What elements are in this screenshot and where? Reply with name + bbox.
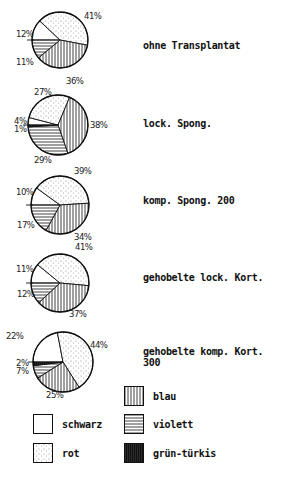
pct-label: 44% (90, 340, 107, 350)
legend-swatch-horizontal-lines-icon (124, 414, 144, 434)
legend-item-rot: rot (33, 443, 79, 463)
row-label-ohne-transplantat: ohne Transplantat (143, 40, 240, 51)
legend-label: schwarz (62, 419, 102, 430)
pct-label: 41% (75, 242, 92, 252)
pct-label: 36% (66, 76, 83, 86)
pct-label: 12% (16, 29, 33, 39)
legend-item-schwarz: schwarz (33, 414, 102, 434)
legend-label: grün-türkis (153, 448, 216, 459)
pct-label: 39% (74, 166, 91, 176)
row-label-komp-spong-200: komp. Spong. 200 (143, 195, 235, 206)
pct-label: 12% (17, 289, 34, 299)
row-label-gehobelte-komp-kort-300: gehobelte komp. Kort. 300 (143, 346, 282, 368)
pct-label: 34% (74, 232, 91, 242)
pct-label: 11% (16, 57, 33, 67)
pct-label: 1% (14, 124, 27, 134)
legend-label: blau (153, 391, 176, 402)
legend-label: violett (153, 419, 193, 430)
legend-swatch-dense-black-icon (124, 443, 144, 463)
pct-label: 37% (69, 309, 86, 319)
row-label-lock-spong: lock. Spong. (143, 118, 212, 129)
pct-label: 22% (6, 331, 23, 341)
legend-item-blau: blau (124, 386, 176, 406)
pct-label: 41% (84, 11, 101, 21)
pct-label: 38% (90, 120, 107, 130)
pie-charts-canvas (0, 0, 282, 480)
pct-label: 29% (34, 155, 51, 165)
row-label-gehobelte-lock-kort: gehobelte lock. Kort. (143, 272, 263, 283)
pct-label: 10% (16, 187, 33, 197)
pct-label: 25% (46, 390, 63, 400)
legend-swatch-stippled-icon (33, 443, 53, 463)
legend-item-gruen-tuerkis: grün-türkis (124, 443, 216, 463)
legend-swatch-white-icon (33, 414, 53, 434)
pct-label: 7% (16, 366, 29, 376)
pct-label: 17% (17, 220, 34, 230)
legend-swatch-vertical-lines-icon (124, 386, 144, 406)
pct-label: 27% (34, 87, 51, 97)
legend-item-violett: violett (124, 414, 193, 434)
legend-label: rot (62, 448, 79, 459)
pct-label: 11% (16, 264, 33, 274)
